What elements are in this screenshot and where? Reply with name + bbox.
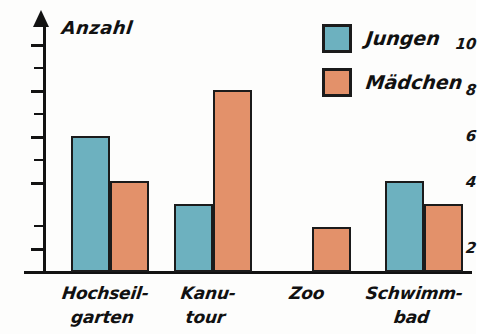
bar-schwimmbad-jungen: [385, 181, 424, 272]
category-label-line1: Hochseil-: [44, 281, 167, 305]
legend-item-maedchen: Mädchen: [322, 64, 472, 100]
legend-item-jungen: Jungen: [322, 20, 472, 56]
y-tick-6: [31, 136, 45, 139]
y-tick-minor-7: [34, 113, 45, 115]
y-tick-10: [31, 44, 45, 47]
legend-swatch-jungen: [322, 24, 352, 53]
category-label-line2: garten: [41, 305, 164, 329]
category-label-hochseilgarten: Hochseil- garten: [41, 281, 167, 329]
bar-zoo-maedchen: [312, 227, 351, 272]
bar-hochseilgarten-maedchen: [110, 181, 149, 272]
legend: Jungen Mädchen: [322, 20, 472, 108]
category-label-schwimmbad: Schwimm- bad: [347, 281, 479, 329]
category-label-line1: Zoo: [261, 281, 354, 305]
y-tick-minor-3: [34, 225, 45, 227]
legend-label-jungen: Jungen: [365, 28, 442, 48]
category-label-line1: Kanu-: [152, 281, 265, 305]
category-label-zoo: Zoo: [261, 281, 354, 305]
y-tick-minor-5: [34, 159, 45, 161]
bar-kanutour-maedchen: [213, 90, 252, 272]
y-tick-4: [31, 182, 45, 185]
y-tick-minor-1: [34, 248, 45, 250]
legend-swatch-maedchen: [322, 68, 352, 97]
category-label-line1: Schwimm-: [350, 281, 479, 305]
bar-hochseilgarten-jungen: [71, 136, 110, 272]
y-tick-minor-9: [34, 67, 45, 69]
category-label-line2: bad: [347, 305, 476, 329]
category-label-kanutour: Kanu- tour: [149, 281, 265, 329]
legend-label-maedchen: Mädchen: [365, 72, 464, 92]
category-label-line2: tour: [149, 305, 262, 329]
y-tick-0: [34, 271, 45, 273]
y-tick-8: [31, 90, 45, 93]
bar-kanutour-jungen: [174, 204, 213, 272]
bar-schwimmbad-maedchen: [424, 204, 463, 272]
